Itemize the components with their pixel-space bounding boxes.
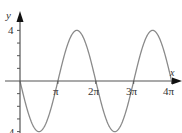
y-tick-label-bottom: -4 [5,126,15,133]
x-tick-label-3pi: 3π [126,85,138,97]
sine-chart: y x 4 -4 π 2π 3π 4π [0,0,182,133]
x-axis-arrow-icon [172,78,182,85]
y-axis-label: y [5,9,11,21]
y-tick-label-top: 4 [8,24,14,36]
x-axis-label: x [169,67,175,78]
y-axis-arrow-icon [17,11,24,22]
x-tick-label-4pi: 4π [163,85,175,97]
x-tick-label-pi: π [53,85,59,97]
x-tick-label-2pi: 2π [88,85,100,97]
